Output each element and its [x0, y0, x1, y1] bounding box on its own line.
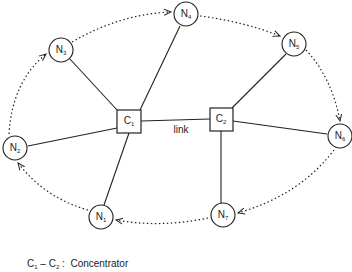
legend-text: Concentrator: [70, 258, 128, 269]
node-n4-label: N4: [181, 8, 192, 20]
ring-arc-n7-n1: [116, 218, 208, 224]
spoke-n2-c1: [28, 128, 117, 146]
node-n3-label: N3: [56, 44, 67, 56]
spoke-n1-c1: [104, 133, 129, 205]
spoke-n3-c1: [69, 58, 118, 111]
ring-arc-n4-n5: [200, 16, 280, 36]
node-n7-label: N7: [218, 209, 229, 221]
node-n1-label: N1: [96, 211, 107, 223]
concentrator-c1-label: C1: [124, 115, 135, 127]
legend-separator: :: [59, 258, 70, 269]
link-line: [141, 119, 210, 121]
node-n5-label: N5: [289, 38, 300, 50]
node-n6-label: N6: [335, 130, 346, 142]
spoke-n6-c2: [233, 121, 327, 134]
ring-arc-n1-n2: [18, 163, 88, 210]
node-circles: [3, 2, 352, 229]
link-label: link: [173, 124, 188, 135]
spoke-n4-c1: [140, 26, 180, 110]
legend-c2: C2: [49, 258, 60, 269]
node-n2-label: N2: [10, 142, 21, 154]
legend-c1: C1: [27, 258, 38, 269]
legend-dash: –: [38, 258, 49, 269]
ring-arc-n6-n7: [238, 150, 334, 213]
spoke-n5-c2: [232, 54, 286, 108]
ring-arc-n5-n6: [306, 50, 340, 121]
concentrator-c2-label: C2: [216, 113, 227, 125]
ring-arc-n2-n3: [9, 54, 46, 134]
ring-arc-n3-n4: [72, 12, 171, 42]
legend: C1 – C2 : Concentrator: [27, 258, 128, 270]
